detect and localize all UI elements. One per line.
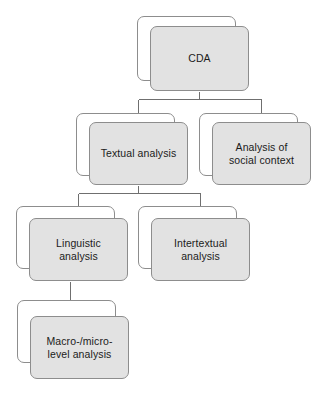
node-analysis-of-social-context-label: Analysis of social context	[225, 141, 298, 167]
node-analysis-of-social-context-front-card[interactable]: Analysis of social context	[212, 122, 311, 185]
node-macro-micro-level-analysis-label: Macro-/micro- level analysis	[42, 335, 116, 361]
node-macro-micro-level-analysis[interactable]: Macro-/micro- level analysis	[17, 300, 129, 379]
node-intertextual-analysis-front-card[interactable]: Intertextual analysis	[151, 218, 250, 281]
node-linguistic-analysis[interactable]: Linguistic analysis	[16, 206, 128, 281]
node-cda-front-card[interactable]: CDA	[150, 26, 249, 91]
node-linguistic-analysis-front-card[interactable]: Linguistic analysis	[29, 218, 128, 281]
diagram-canvas: CDA Textual analysis Analysis of social …	[0, 0, 326, 398]
node-analysis-of-social-context[interactable]: Analysis of social context	[199, 113, 311, 185]
node-textual-analysis-label: Textual analysis	[97, 147, 181, 160]
node-linguistic-analysis-label: Linguistic analysis	[52, 237, 105, 263]
node-intertextual-analysis[interactable]: Intertextual analysis	[138, 206, 250, 281]
node-textual-analysis-front-card[interactable]: Textual analysis	[89, 122, 188, 185]
node-macro-micro-level-analysis-front-card[interactable]: Macro-/micro- level analysis	[30, 316, 129, 379]
node-intertextual-analysis-label: Intertextual analysis	[170, 237, 231, 263]
node-textual-analysis[interactable]: Textual analysis	[76, 113, 188, 185]
node-cda[interactable]: CDA	[137, 16, 249, 91]
node-cda-label: CDA	[184, 52, 214, 65]
